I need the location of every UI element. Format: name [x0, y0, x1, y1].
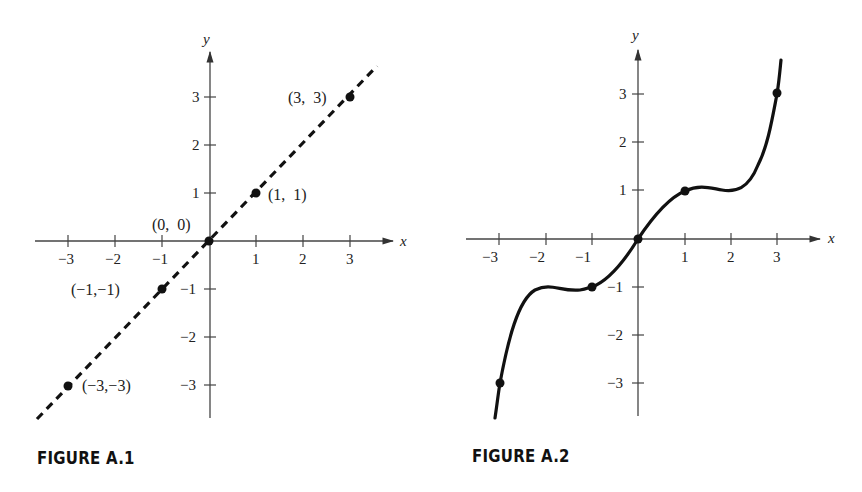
data-point: [158, 285, 167, 294]
data-point: [496, 379, 505, 388]
figures-canvas: x y −3 −2 −1 1 2 3 3 2 1 −1 −2 −: [0, 0, 862, 492]
point-label: (−3,−3): [82, 377, 131, 395]
data-point: [64, 382, 73, 391]
data-point: [681, 187, 690, 196]
y-tick-label: 2: [192, 137, 200, 153]
figure-a2: x y −3 −2 −1 1 2 3 3 2 1 −1 −2 −: [466, 27, 835, 418]
point-label: (3, 3): [288, 89, 327, 107]
x-tick-label: 2: [299, 251, 307, 267]
x-tick-label: −2: [105, 251, 121, 267]
figure-a1-caption: FIGURE A.1: [37, 448, 135, 468]
y-axis-label: y: [201, 31, 210, 47]
x-tick-label: −3: [58, 251, 74, 267]
x-axis-label: x: [827, 230, 835, 246]
y-tick-label: −3: [180, 377, 196, 393]
x-tick-label: 1: [681, 249, 689, 265]
x-tick-label: −2: [529, 249, 545, 265]
x-tick-label: −1: [152, 251, 168, 267]
data-point: [588, 283, 597, 292]
y-tick-label: −1: [607, 279, 623, 295]
y-tick-label: 2: [619, 134, 627, 150]
data-point: [773, 89, 782, 98]
point-label: (−1,−1): [71, 281, 120, 299]
x-tick-label: −1: [575, 249, 591, 265]
y-tick-label: 1: [619, 182, 627, 198]
y-tick-label: 3: [619, 86, 627, 102]
y-tick-label: −1: [180, 281, 196, 297]
point-label: (0, 0): [152, 216, 191, 234]
x-tick-label: 2: [727, 249, 735, 265]
y-tick-label: −2: [180, 329, 196, 345]
y-tick-label: 3: [192, 89, 200, 105]
y-tick-label: 1: [192, 185, 200, 201]
x-tick-label: 1: [252, 251, 260, 267]
y-tick-label: −2: [607, 327, 623, 343]
x-tick-label: 3: [773, 249, 781, 265]
data-point: [346, 93, 355, 102]
data-point: [634, 235, 643, 244]
figure-a2-caption: FIGURE A.2: [472, 446, 570, 466]
data-point: [252, 189, 261, 198]
point-label: (1, 1): [268, 186, 307, 204]
x-axis-label: x: [399, 233, 407, 249]
x-tick-label: 3: [346, 251, 354, 267]
data-point: [205, 237, 214, 246]
x-tick-label: −3: [482, 249, 498, 265]
figure-a1: x y −3 −2 −1 1 2 3 3 2 1 −1 −2 −: [35, 31, 407, 419]
y-axis-label: y: [630, 27, 639, 43]
y-tick-label: −3: [607, 375, 623, 391]
